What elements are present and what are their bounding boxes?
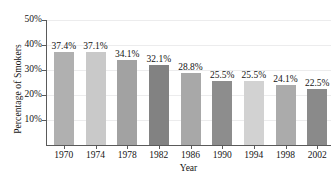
bar (86, 52, 106, 145)
bar (149, 65, 169, 145)
x-axis-tick (159, 146, 160, 149)
bar (307, 89, 327, 145)
y-axis-tick-label: 50% (0, 14, 42, 24)
gridline (47, 20, 331, 21)
y-axis-tick-label: 40% (0, 39, 42, 49)
bar (181, 73, 201, 145)
y-axis-tick (42, 120, 46, 121)
x-axis-tick (96, 146, 97, 149)
bar (212, 81, 232, 145)
bar-value-label: 22.5% (295, 78, 332, 88)
x-axis-tick (64, 146, 65, 149)
x-axis-tick (127, 146, 128, 149)
bar (276, 85, 296, 145)
plot-area: 10%20%30%40%50% 37.4%37.1%34.1%32.1%28.8… (46, 20, 331, 146)
bar (244, 81, 264, 145)
x-axis-tick (222, 146, 223, 149)
x-axis-tick-label: 2002 (297, 150, 332, 160)
x-axis-tick (317, 146, 318, 149)
y-axis-tick-label: 10% (0, 114, 42, 124)
x-axis-tick (254, 146, 255, 149)
y-axis-line (46, 20, 47, 146)
bar (117, 60, 137, 145)
x-axis-title: Year (46, 163, 331, 173)
smoking-percentage-bar-chart: Percentage of Smokers 10%20%30%40%50% 37… (0, 0, 332, 181)
y-axis-tick (42, 20, 46, 21)
x-axis-tick (286, 146, 287, 149)
y-axis-tick (42, 95, 46, 96)
y-axis-tick-label: 30% (0, 64, 42, 74)
bar (54, 52, 74, 146)
x-axis-tick (191, 146, 192, 149)
y-axis-tick-label: 20% (0, 89, 42, 99)
y-axis-tick (42, 70, 46, 71)
x-axis-line (46, 145, 331, 146)
